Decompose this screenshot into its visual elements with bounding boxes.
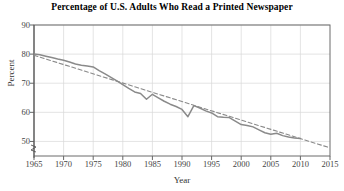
axis-ticks [30,25,330,160]
axis-break-icon [31,145,36,152]
chart-container: Percentage of U.S. Adults Who Read a Pri… [0,0,344,191]
x-tick-label: 2015 [310,159,344,169]
